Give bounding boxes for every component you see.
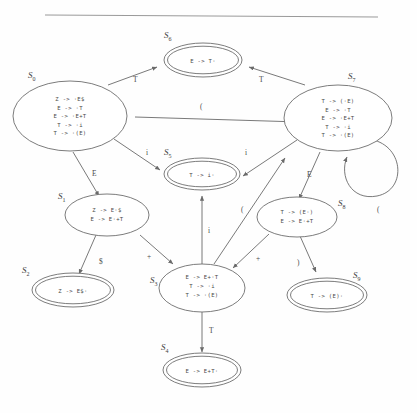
production-S7-2: E -> ·E+T xyxy=(321,115,354,121)
edge-S1-S3 xyxy=(140,235,173,264)
edge-label-S7-S6: T xyxy=(259,75,264,84)
edge-S0-S7 xyxy=(135,117,300,122)
production-S8-1: E -> E·+T xyxy=(280,218,313,224)
production-S3-0: E -> E+·T xyxy=(185,274,218,280)
edge-label-S3-S7: ( xyxy=(241,205,244,214)
state-node-S2[interactable]: Z -> E$· S2 xyxy=(22,265,114,307)
production-S7-0: T -> (·E) xyxy=(321,98,354,104)
edge-S7-S5 xyxy=(243,140,297,176)
edge-label-S7-S8: E xyxy=(307,170,312,179)
edge-label-S0-S6: T xyxy=(133,75,138,84)
edge-S8-S3 xyxy=(233,234,269,268)
state-node-S3[interactable]: E -> E+·T T -> ·i T -> ·(E) S3 xyxy=(150,264,245,312)
edge-label-S7-S7: ( xyxy=(377,205,380,214)
production-S8-0: T -> (E·) xyxy=(280,209,313,215)
state-label-S5: S5 xyxy=(164,147,172,159)
production-S3-2: T -> ·(E) xyxy=(185,292,218,298)
figure-page: T ( i E $ + i T ( T i E ( ) + E -> T· S6 xyxy=(0,0,417,413)
production-S5-0: T -> i· xyxy=(189,172,215,178)
state-label-S0: S0 xyxy=(28,70,36,82)
edge-label-S0-S7: ( xyxy=(200,102,203,111)
production-S3-1: T -> ·i xyxy=(189,283,215,289)
edge-label-S0-S1: E xyxy=(92,169,97,178)
production-S1-1: E -> E·+T xyxy=(90,216,123,222)
edge-label-S1-S3: + xyxy=(147,252,151,261)
state-label-S8: S8 xyxy=(338,198,346,210)
state-node-S9[interactable]: T -> (E)· S9 xyxy=(287,270,367,312)
production-S7-1: E -> ·T xyxy=(325,107,351,113)
state-node-S0[interactable]: Z -> ·E$ E -> ·T E -> ·E+T T -> ·i T -> … xyxy=(13,70,127,151)
state-label-S6: S6 xyxy=(164,30,172,42)
page-divider xyxy=(45,15,378,17)
edge-label-S8-S3: + xyxy=(256,254,260,263)
edge-S1-S2 xyxy=(79,235,96,274)
edge-label-S0-S5: i xyxy=(146,148,148,157)
state-node-S5[interactable]: T -> i· S5 xyxy=(164,147,240,190)
lr-automaton-diagram: T ( i E $ + i T ( T i E ( ) + E -> T· S6 xyxy=(0,0,417,413)
state-label-S7: S7 xyxy=(348,71,356,83)
state-node-S1[interactable]: Z -> E·$ E -> E·+T S1 xyxy=(58,191,149,236)
production-S4-0: E -> E+T· xyxy=(185,368,218,374)
state-label-S2: S2 xyxy=(22,265,30,277)
production-S1-0: Z -> E·$ xyxy=(92,207,122,213)
production-S9-0: T -> (E)· xyxy=(310,293,343,299)
edge-label-S3-S5: i xyxy=(208,226,210,235)
edge-S0-S5 xyxy=(114,139,160,170)
state-label-S4: S4 xyxy=(161,342,169,354)
edge-label-S3-S4: T xyxy=(209,326,214,335)
production-S2-0: Z -> E$· xyxy=(58,288,87,294)
production-S0-1: E -> ·T xyxy=(57,105,83,111)
state-node-S8[interactable]: T -> (E·) E -> E·+T S8 xyxy=(257,197,346,237)
state-label-S3: S3 xyxy=(150,275,158,287)
production-S0-3: T -> ·i xyxy=(57,122,83,128)
production-S7-3: T -> ·i xyxy=(325,124,351,130)
edge-label-S1-S2: $ xyxy=(99,257,103,266)
production-S6-0: E -> T· xyxy=(190,58,216,64)
edge-label-S7-S5: i xyxy=(245,148,247,157)
production-S0-0: Z -> ·E$ xyxy=(55,96,85,102)
state-node-S6[interactable]: E -> T· S6 xyxy=(164,30,242,77)
production-S0-2: E -> ·E+T xyxy=(53,113,86,119)
edge-S8-S9 xyxy=(300,236,316,272)
state-node-S4[interactable]: E -> E+T· S4 xyxy=(161,342,241,387)
state-label-S1: S1 xyxy=(58,191,66,203)
edge-label-S8-S9: ) xyxy=(297,258,300,267)
production-S7-4: T -> ·(E) xyxy=(321,132,354,138)
edge-S7-S6 xyxy=(249,67,305,85)
production-S0-4: T -> ·(E) xyxy=(53,130,86,136)
state-label-S9: S9 xyxy=(353,270,361,282)
